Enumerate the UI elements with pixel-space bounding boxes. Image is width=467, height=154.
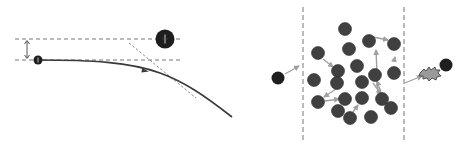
scatterer-sphere bbox=[332, 105, 345, 118]
scatterer-sphere bbox=[388, 67, 401, 80]
diagram-figure bbox=[0, 0, 467, 154]
scatterer-sphere bbox=[339, 93, 352, 106]
incoming-particle bbox=[272, 72, 285, 85]
momentum-arrow bbox=[394, 57, 395, 61]
momentum-arrow bbox=[324, 89, 336, 97]
scatterer-sphere bbox=[343, 43, 356, 56]
trajectory-asymptote-line bbox=[129, 43, 196, 98]
outgoing-particle bbox=[440, 59, 453, 72]
right-panel-multiple-scattering bbox=[272, 7, 453, 141]
particle-trajectory bbox=[38, 60, 232, 117]
scatterer-sphere bbox=[344, 112, 357, 125]
outgoing-arrow bbox=[405, 76, 422, 83]
scatterer-sphere bbox=[351, 60, 364, 73]
target-nucleus bbox=[156, 30, 175, 49]
diagram-canvas bbox=[0, 0, 467, 154]
scatterer-sphere bbox=[385, 102, 398, 115]
momentum-arrow bbox=[353, 105, 358, 112]
scatterer-sphere bbox=[365, 111, 378, 124]
interaction-burst-icon bbox=[419, 67, 441, 81]
scatterer-sphere bbox=[312, 47, 325, 60]
scatterer-sphere bbox=[388, 38, 401, 51]
scatterer-sphere bbox=[312, 96, 325, 109]
scatterer-sphere bbox=[339, 23, 352, 36]
left-panel-deflection bbox=[15, 30, 232, 118]
scatterer-sphere bbox=[308, 74, 321, 87]
momentum-arrow bbox=[323, 59, 333, 67]
scatterer-sphere bbox=[369, 69, 382, 82]
impact-parameter-arrow bbox=[25, 41, 30, 59]
scatterer-sphere bbox=[332, 65, 345, 78]
incident-particle bbox=[34, 56, 43, 65]
momentum-arrow bbox=[325, 99, 339, 101]
scatterer-sphere bbox=[356, 76, 369, 89]
incoming-arrow bbox=[285, 66, 299, 74]
scatterer-cluster bbox=[308, 23, 401, 125]
scatterer-sphere bbox=[356, 92, 369, 105]
scatterer-sphere bbox=[331, 77, 344, 90]
scatterer-sphere bbox=[363, 35, 376, 48]
